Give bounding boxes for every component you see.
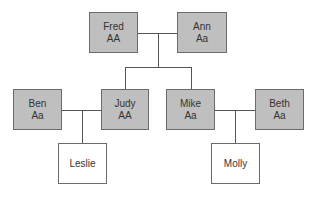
descent-line-leslie bbox=[82, 110, 83, 143]
person-name: Fred bbox=[103, 21, 124, 33]
person-name: Ben bbox=[29, 98, 47, 110]
person-genotype: Aa bbox=[184, 110, 196, 122]
person-name: Judy bbox=[114, 98, 135, 110]
descent-line-fred-ann bbox=[158, 33, 159, 67]
person-name: Molly bbox=[224, 158, 247, 170]
child-line-judy bbox=[125, 67, 126, 89]
person-name: Beth bbox=[269, 98, 290, 110]
person-genotype: Aa bbox=[273, 110, 285, 122]
person-name: Leslie bbox=[69, 158, 95, 170]
person-judy: Judy AA bbox=[101, 89, 149, 130]
pedigree-diagram: Fred AA Ann Aa Ben Aa Judy AA Mike Aa Be… bbox=[0, 0, 316, 203]
person-ben: Ben Aa bbox=[13, 89, 62, 130]
person-molly: Molly bbox=[211, 143, 260, 184]
person-genotype: AA bbox=[118, 110, 131, 122]
person-genotype: Aa bbox=[31, 110, 43, 122]
person-beth: Beth Aa bbox=[255, 89, 304, 130]
descent-line-molly bbox=[235, 110, 236, 143]
person-ann: Ann Aa bbox=[177, 12, 227, 53]
person-fred: Fred AA bbox=[89, 12, 138, 53]
person-name: Mike bbox=[180, 98, 201, 110]
person-genotype: AA bbox=[107, 33, 120, 45]
sibling-line-judy-mike bbox=[125, 67, 192, 68]
person-genotype: Aa bbox=[196, 33, 208, 45]
person-name: Ann bbox=[193, 21, 211, 33]
child-line-mike bbox=[191, 67, 192, 89]
person-leslie: Leslie bbox=[58, 143, 107, 184]
person-mike: Mike Aa bbox=[166, 89, 215, 130]
